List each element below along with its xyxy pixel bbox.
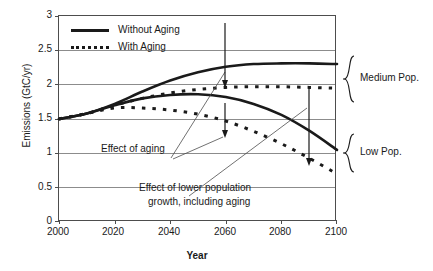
brace-low-pop-icon	[343, 133, 357, 173]
y-tick-label-2_5: 2.5	[18, 43, 52, 54]
legend-item-with-aging: With Aging	[71, 38, 180, 55]
legend: Without Aging With Aging	[71, 21, 180, 55]
y-tick-label-0: 0	[18, 215, 52, 226]
x-tick-label-2040: 2040	[146, 226, 192, 237]
brace-label-medium-pop: Medium Pop.	[360, 72, 419, 83]
x-tick-label-2000: 2000	[35, 226, 81, 237]
legend-swatch-solid	[71, 25, 109, 35]
annotation-effect-of-aging: Effect of aging	[101, 143, 165, 154]
x-tick-label-2020: 2020	[90, 226, 136, 237]
x-tick-label-2080: 2080	[257, 226, 303, 237]
x-tick-label-2100: 2100	[313, 226, 359, 237]
x-axis-title: Year	[58, 250, 336, 261]
y-tick-label-1_5: 1.5	[18, 112, 52, 123]
y-tick-label-3: 3	[18, 9, 52, 20]
plot-area: Without Aging With Aging Effect of aging…	[58, 15, 336, 221]
legend-label-without-aging: Without Aging	[118, 24, 180, 35]
y-tick-label-2: 2	[18, 78, 52, 89]
chart-figure: Emissions (GtC/yr) 3 2.5 2 1.5 1 0.5 0 2…	[0, 0, 433, 271]
legend-item-without-aging: Without Aging	[71, 21, 180, 38]
legend-label-with-aging: With Aging	[118, 41, 166, 52]
annotation-effect-lower-pop-line1: Effect of lower population	[139, 182, 251, 193]
y-tick-label-0_5: 0.5	[18, 181, 52, 192]
legend-swatch-dotted	[71, 42, 109, 52]
annotation-effect-lower-pop-line2: growth, including aging	[148, 196, 250, 207]
brace-medium-pop-icon	[343, 55, 357, 103]
x-tick-label-2060: 2060	[202, 226, 248, 237]
y-tick-label-1: 1	[18, 146, 52, 157]
brace-label-low-pop: Low Pop.	[360, 146, 402, 157]
